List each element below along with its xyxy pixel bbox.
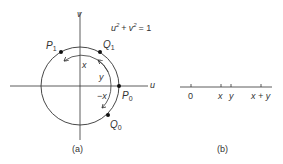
tick-label-0: 0 [188, 91, 193, 101]
caption-a: (a) [72, 144, 83, 154]
tick-label-y: y [228, 91, 234, 101]
label-p1: P1 [46, 40, 57, 52]
arc-label-y: y [98, 72, 104, 82]
arc-label-neg-x: −x [97, 91, 107, 101]
figure-b: 0 x y x + y (b) [180, 84, 272, 154]
tick-label-x-plus-y: x + y [250, 91, 271, 101]
u-axis-label: u [150, 80, 155, 90]
label-q1: Q1 [103, 39, 115, 51]
arc-y-head [98, 60, 108, 72]
figure-a: v u u2+v2= 1 P1 Q1 P0 Q0 x y −x (a) [10, 9, 155, 154]
point-q1 [98, 50, 102, 54]
label-p0: P0 [122, 90, 133, 102]
point-p0 [117, 84, 121, 88]
caption-b: (b) [217, 144, 228, 154]
figure: v u u2+v2= 1 P1 Q1 P0 Q0 x y −x (a) 0 x … [0, 0, 283, 164]
arc-x-arrow [64, 55, 98, 61]
arc-label-x: x [81, 60, 87, 70]
equation: u2+v2= 1 [111, 22, 151, 33]
tick-label-x: x [217, 91, 223, 101]
point-q0 [106, 113, 110, 117]
v-axis-label: v [77, 9, 82, 19]
label-q0: Q0 [110, 119, 122, 131]
point-p1 [59, 50, 63, 54]
